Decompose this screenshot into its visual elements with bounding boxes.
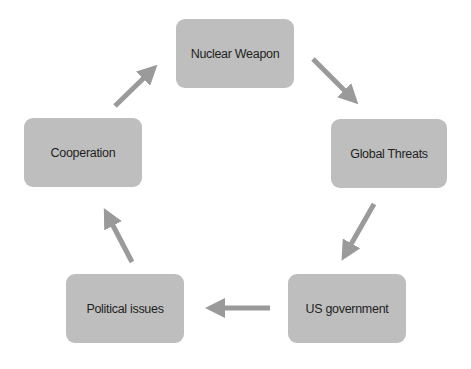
arrow-global-to-us: [346, 204, 374, 253]
node-cooperation: Cooperation: [24, 118, 142, 187]
arrow-political-to-cooperation: [108, 216, 132, 262]
node-label: Nuclear Weapon: [191, 47, 280, 61]
node-us-government: US government: [288, 274, 406, 343]
node-political-issues: Political issues: [66, 274, 184, 343]
node-label: US government: [306, 302, 389, 316]
node-label: Political issues: [86, 302, 163, 316]
arrow-nuclear-to-global: [313, 59, 352, 98]
node-label: Cooperation: [51, 146, 116, 160]
arrow-cooperation-to-nuclear: [115, 71, 151, 106]
node-label: Global Threats: [350, 147, 428, 161]
node-global-threats: Global Threats: [331, 119, 447, 188]
node-nuclear-weapon: Nuclear Weapon: [176, 19, 294, 88]
